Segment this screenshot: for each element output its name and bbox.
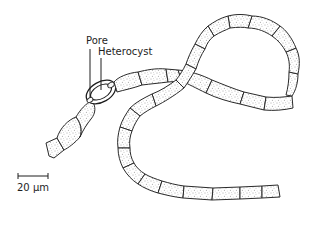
heterocyst-label: Heterocyst [98, 47, 152, 57]
filament-left-end [46, 101, 95, 158]
pore-label: Pore [86, 36, 108, 46]
scale-bar [18, 173, 48, 179]
scale-bar-label: 20 µm [17, 183, 49, 193]
